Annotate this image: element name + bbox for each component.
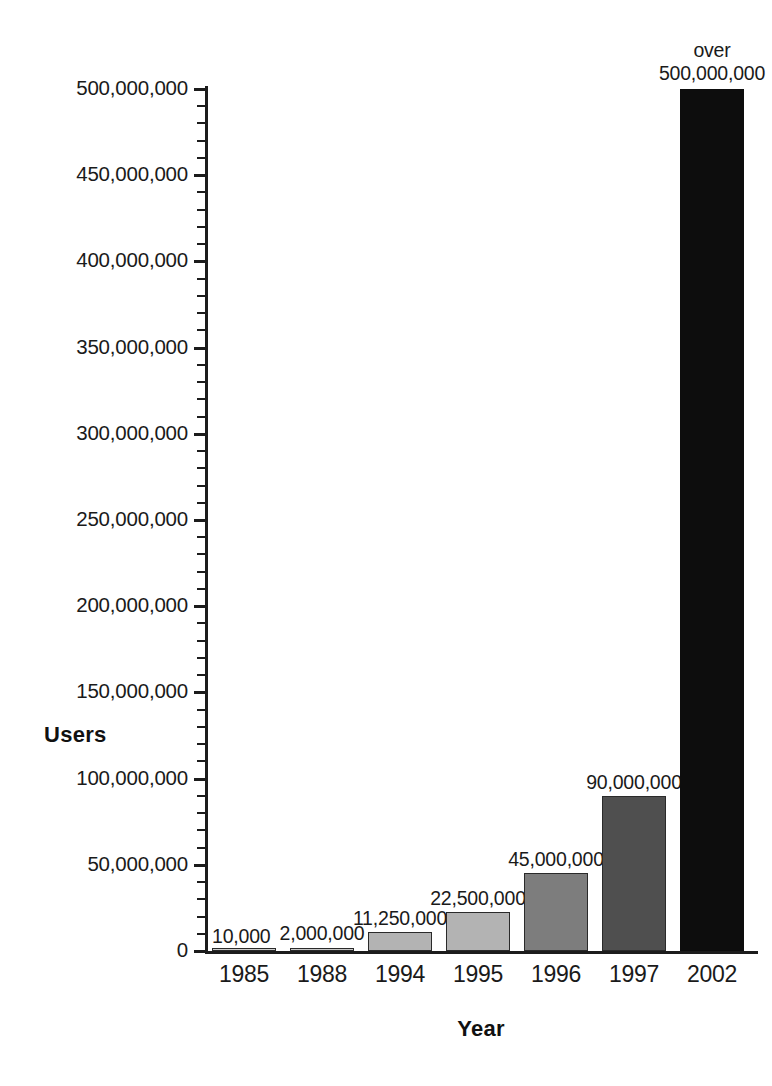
bar-chart: 050,000,000100,000,000150,000,000200,000… (0, 0, 772, 1086)
y-axis-tick-minor (197, 933, 206, 935)
y-axis-tick-label: 200,000,000 (8, 595, 188, 616)
y-axis-tick-major (194, 519, 206, 522)
y-axis-tick-minor (197, 329, 206, 331)
bar-value-number: 500,000,000 (659, 62, 765, 84)
x-axis-tick-label: 2002 (672, 961, 752, 987)
y-axis-tick-label: 0 (8, 940, 188, 961)
y-axis-tick-major (194, 347, 206, 350)
bar-value-label-1997: 90,000,000 (586, 772, 682, 793)
y-axis-tick-label: 450,000,000 (8, 164, 188, 185)
y-axis-tick-major (194, 778, 206, 781)
y-axis-tick-minor (197, 829, 206, 831)
bar-value-label-2002: over500,000,000 (659, 39, 765, 85)
bar-1997[interactable] (602, 796, 666, 951)
y-axis-tick-minor (197, 209, 206, 211)
bar-value-prefix: over (659, 39, 765, 62)
bar-value-label-1996: 45,000,000 (508, 849, 604, 870)
y-axis-tick-label: 400,000,000 (8, 250, 188, 271)
y-axis-tick-minor (197, 226, 206, 228)
bar-group: 90,000,000 (602, 86, 666, 951)
y-axis-tick-minor (197, 709, 206, 711)
bar-value-label-1994: 11,250,000 (353, 908, 447, 929)
y-axis-tick-minor (197, 760, 206, 762)
y-axis-tick-minor (197, 640, 206, 642)
y-axis-tick-major (194, 691, 206, 694)
y-axis-tick-minor (197, 812, 206, 814)
y-axis-tick-minor (197, 381, 206, 383)
y-axis-tick-minor (197, 657, 206, 659)
y-axis-tick-minor (197, 588, 206, 590)
y-axis-tick-major (194, 433, 206, 436)
y-axis-tick-minor (197, 916, 206, 918)
y-axis-tick-major (194, 260, 206, 263)
y-axis-tick-minor (197, 278, 206, 280)
y-axis-tick-label: 350,000,000 (8, 337, 188, 358)
y-axis-tick-minor (197, 553, 206, 555)
y-axis-tick-minor (197, 795, 206, 797)
y-axis-tick-major (194, 88, 206, 91)
y-axis-tick-minor (197, 743, 206, 745)
bar-group: 10,000 (212, 86, 276, 951)
y-axis-tick-label: 150,000,000 (8, 681, 188, 702)
bar-group: 45,000,000 (524, 86, 588, 951)
y-axis-tick-minor (197, 157, 206, 159)
bar-value-label-1985: 10,000 (212, 926, 270, 947)
y-axis-tick-minor (197, 674, 206, 676)
y-axis-tick-minor (197, 416, 206, 418)
y-axis-tick-minor (197, 467, 206, 469)
y-axis-tick-minor (197, 571, 206, 573)
y-axis-tick-minor (197, 140, 206, 142)
y-axis-tick-minor (197, 881, 206, 883)
bar-value-label-1995: 22,500,000 (430, 888, 526, 909)
bar-1996[interactable] (524, 873, 588, 951)
y-axis-tick-minor (197, 312, 206, 314)
y-axis-tick-label: 100,000,000 (8, 768, 188, 789)
bar-group: 2,000,000 (290, 86, 354, 951)
x-axis-line (205, 951, 758, 954)
y-axis-tick-major (194, 605, 206, 608)
y-axis-tick-minor (197, 105, 206, 107)
y-axis-tick-label: 500,000,000 (8, 78, 188, 99)
bar-group: 11,250,000 (368, 86, 432, 951)
x-axis-tick-label: 1985 (204, 961, 284, 987)
y-axis-tick-minor (197, 536, 206, 538)
y-axis-title: Users (44, 722, 107, 748)
bar-1988[interactable] (290, 948, 354, 951)
plot-area: 10,0002,000,00011,250,00022,500,00045,00… (208, 86, 758, 951)
y-axis-tick-minor (197, 898, 206, 900)
y-axis-tick-minor (197, 398, 206, 400)
y-axis-tick-minor (197, 622, 206, 624)
y-axis-tick-label: 250,000,000 (8, 509, 188, 530)
y-axis-tick-minor (197, 847, 206, 849)
y-axis-tick-major (194, 864, 206, 867)
bar-2002[interactable] (680, 89, 744, 951)
x-axis-tick-label: 1996 (516, 961, 596, 987)
x-axis-tick-label: 1994 (360, 961, 440, 987)
x-axis-tick-label: 1997 (594, 961, 674, 987)
y-axis-tick-label: 50,000,000 (8, 854, 188, 875)
y-axis-tick-minor (197, 502, 206, 504)
y-axis-tick-minor (197, 122, 206, 124)
bar-group: over500,000,000 (680, 86, 744, 951)
bar-1995[interactable] (446, 912, 510, 951)
bar-1985[interactable] (212, 948, 276, 951)
x-axis-tick-label: 1995 (438, 961, 518, 987)
y-axis-tick-major (194, 174, 206, 177)
x-axis-title: Year (0, 1016, 772, 1042)
y-axis-tick-minor (197, 450, 206, 452)
x-axis-tick-label: 1988 (282, 961, 362, 987)
bar-value-label-1988: 2,000,000 (280, 923, 365, 944)
y-axis-tick-minor (197, 191, 206, 193)
y-axis-tick-major (194, 950, 206, 953)
bar-1994[interactable] (368, 932, 432, 951)
y-axis-tick-minor (197, 726, 206, 728)
y-axis-tick-minor (197, 295, 206, 297)
y-axis-tick-minor (197, 364, 206, 366)
y-axis-tick-label: 300,000,000 (8, 423, 188, 444)
y-axis-tick-minor (197, 485, 206, 487)
bar-group: 22,500,000 (446, 86, 510, 951)
y-axis-tick-minor (197, 243, 206, 245)
